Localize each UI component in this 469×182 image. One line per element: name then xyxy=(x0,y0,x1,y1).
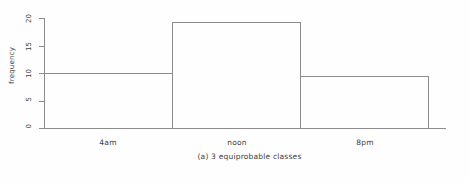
histogram-figure: frequency 20 15 10 5 0 4am noon 8pm (a) … xyxy=(0,0,469,182)
y-tick-5: 5 xyxy=(39,101,44,102)
y-axis-title: frequency xyxy=(9,47,16,84)
bar-edge-right xyxy=(428,76,429,129)
y-tick-label-5: 5 xyxy=(26,97,33,101)
y-tick-label-20: 20 xyxy=(26,14,33,23)
y-tick-15: 15 xyxy=(39,46,44,47)
bar-top-3 xyxy=(300,76,429,77)
x-label-4am: 4am xyxy=(99,138,116,147)
y-tick-label-0: 0 xyxy=(26,124,33,128)
x-label-noon: noon xyxy=(227,138,246,147)
y-tick-0: 0 xyxy=(39,128,44,129)
y-tick-label-15: 15 xyxy=(26,42,33,51)
bar-top-2 xyxy=(172,22,301,23)
x-axis-line xyxy=(44,128,446,129)
bar-top-1 xyxy=(44,73,173,74)
figure-caption: (a) 3 equiprobable classes xyxy=(0,152,469,161)
figure-caption-text: (a) 3 equiprobable classes xyxy=(197,152,301,161)
bar-edge-1-2 xyxy=(172,22,173,129)
y-tick-20: 20 xyxy=(39,18,44,19)
y-tick-label-10: 10 xyxy=(26,69,33,78)
x-label-8pm: 8pm xyxy=(356,138,373,147)
